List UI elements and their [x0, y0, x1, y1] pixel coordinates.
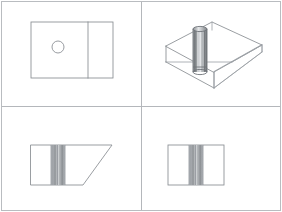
side-view-outline [31, 145, 112, 185]
side-view-hole-shade [51, 145, 65, 185]
viewport-top-view[interactable] [31, 22, 113, 78]
viewport-side-view[interactable] [31, 145, 112, 185]
front-view-hole-shade [189, 145, 203, 185]
iso-cylinder [193, 26, 207, 74]
cylinder-body [193, 29, 207, 72]
top-view-outline [31, 22, 113, 78]
iso-top-face [166, 22, 262, 72]
viewport-isometric-view[interactable] [166, 22, 262, 88]
iso-internal-right-line [232, 45, 262, 62]
drawing-canvas [0, 0, 282, 212]
viewport-front-view[interactable] [168, 145, 224, 185]
top-view-hole-circle [52, 41, 64, 53]
cylinder-top-cap [193, 26, 207, 31]
iso-chamfer-bottom-edge [214, 52, 262, 88]
drawing-sheet [0, 0, 282, 212]
iso-chamfer-face [214, 45, 262, 88]
